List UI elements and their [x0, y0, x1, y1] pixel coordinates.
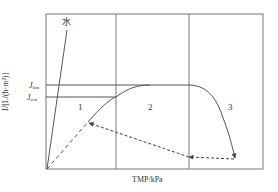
region-3-label: 3	[228, 102, 233, 112]
region-2-label: 2	[148, 102, 153, 112]
jlim-label: Jlim	[29, 81, 39, 90]
water-label: 水	[62, 16, 71, 27]
flux-curve	[88, 85, 235, 158]
diagram: 水 1 2 3 TMP/kPa Jlim Jcrit J/[L/(h·m²)]	[0, 0, 278, 192]
return-path-segment-1	[189, 157, 234, 159]
x-axis-label: TMP/kPa	[132, 175, 163, 184]
return-path-segment-2	[89, 123, 189, 157]
water-flux-line	[47, 30, 67, 169]
y-axis-label: J/[L/(h·m²)]	[1, 73, 10, 111]
jcrit-label: Jcrit	[27, 93, 38, 102]
region-1-label: 1	[78, 102, 83, 112]
flux-tmp-diagram: 水 1 2 3 TMP/kPa Jlim Jcrit	[0, 0, 278, 192]
